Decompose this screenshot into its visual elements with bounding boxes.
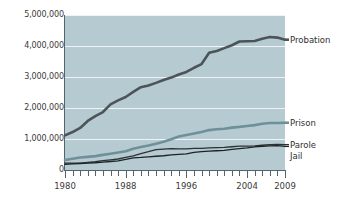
chart-container: 01,000,0002,000,0003,000,0004,000,0005,0… <box>0 0 340 207</box>
series-label-prison: Prison <box>290 119 316 128</box>
series-label-parole: Parole <box>290 141 316 150</box>
series-label-jail: Jail <box>290 152 302 161</box>
series-lines-group <box>0 0 340 207</box>
series-line-probation <box>65 37 285 135</box>
series-label-probation: Probation <box>290 36 330 45</box>
